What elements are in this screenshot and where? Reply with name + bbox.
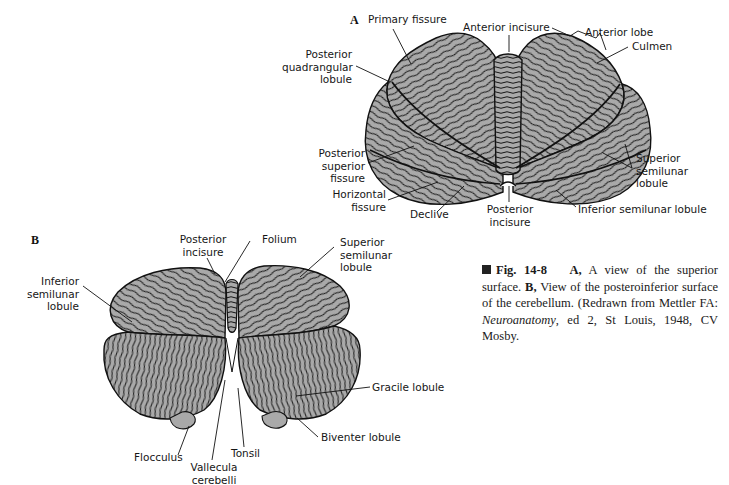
label-flocculus: Flocculus (134, 451, 183, 464)
figure-caption: Fig. 14-8 A, A view of the superior surf… (482, 262, 718, 345)
caption-square-bullet-icon (482, 265, 491, 274)
label-primary-fissure: Primary fissure (368, 13, 447, 26)
label-horizontal-fissure: Horizontal fissure (320, 188, 386, 213)
label-posterior-incisure-a: Posterior incisure (479, 203, 541, 228)
caption-a-marker: A, (570, 263, 582, 277)
panel-b-cerebellum-drawing (104, 266, 360, 429)
label-superior-semilunar-lobule-a: Superior semilunar lobule (636, 152, 688, 190)
caption-book-title: Neuroanatomy (482, 313, 556, 327)
label-culmen: Culmen (632, 40, 672, 53)
label-folium: Folium (262, 233, 297, 246)
label-inferior-semilunar-lobule-a: Inferior semilunar lobule (578, 203, 707, 216)
panel-a-letter: A (350, 13, 359, 28)
panel-b-letter: B (31, 233, 39, 248)
label-biventer-lobule: Biventer lobule (321, 431, 401, 444)
label-anterior-incisure: Anterior incisure (463, 21, 550, 34)
label-inferior-semilunar-lobule-b: Inferior semilunar lobule (14, 275, 79, 313)
label-tonsil: Tonsil (231, 447, 260, 460)
label-posterior-quadrangular-lobule: Posterior quadrangular lobule (282, 48, 352, 86)
label-posterior-incisure-b: Posterior incisure (172, 233, 234, 258)
label-anterior-lobe: Anterior lobe (585, 26, 653, 39)
label-vallecula-cerebelli: Vallecula cerebelli (178, 461, 250, 485)
label-declive: Declive (410, 208, 449, 221)
label-posterior-superior-fissure: Posterior superior fissure (300, 147, 365, 185)
caption-figure-number: Fig. 14-8 (496, 263, 547, 277)
caption-b-marker: B, (525, 280, 536, 294)
label-gracile-lobule: Gracile lobule (372, 381, 444, 394)
label-superior-semilunar-lobule-b: Superior semilunar lobule (340, 236, 392, 274)
